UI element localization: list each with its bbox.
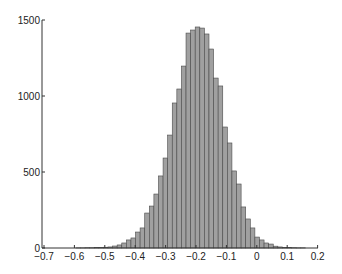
histogram-bar — [204, 34, 209, 248]
histogram-bar — [172, 103, 177, 248]
histogram-bar — [264, 243, 269, 248]
histogram-bar — [181, 66, 186, 248]
histogram-bar — [154, 194, 159, 248]
histogram-bar — [163, 158, 168, 248]
y-tick-label: 0 — [34, 243, 40, 254]
histogram-bar — [191, 30, 196, 248]
histogram-bar — [209, 49, 214, 248]
x-tick-label: −0.4 — [125, 251, 145, 262]
histogram-bar — [140, 228, 145, 248]
histogram-bar — [136, 232, 141, 248]
histogram-bar — [195, 27, 200, 248]
histogram-bar — [250, 228, 255, 248]
histogram-bar — [223, 127, 228, 248]
histogram-bar — [237, 184, 242, 248]
x-tick-label: −0.6 — [65, 251, 85, 262]
x-tick-label: 0.1 — [280, 251, 294, 262]
x-tick-label: 0.2 — [311, 251, 325, 262]
histogram-bar — [168, 135, 173, 248]
histogram-bar — [145, 213, 150, 248]
x-tick-label: −0.1 — [217, 251, 237, 262]
histogram-bar — [200, 28, 205, 248]
x-tick-label: −0.2 — [186, 251, 206, 262]
histogram-bar — [177, 89, 182, 248]
y-axis-ticks: 050010001500 — [18, 15, 45, 254]
histogram-bar — [259, 240, 264, 248]
histogram-bar — [122, 243, 127, 248]
histogram-bar — [126, 240, 131, 248]
histogram-bar — [158, 176, 163, 248]
histogram-chart: −0.7−0.6−0.5−0.4−0.3−0.2−0.100.10.2 0500… — [0, 0, 342, 274]
y-tick-label: 500 — [23, 167, 40, 178]
histogram-bar — [214, 78, 219, 248]
histogram-bar — [186, 33, 191, 248]
x-tick-label: 0 — [254, 251, 260, 262]
y-tick-label: 1000 — [18, 91, 41, 102]
histogram-bar — [218, 86, 223, 248]
histogram-bar — [269, 244, 274, 248]
x-tick-label: −0.3 — [156, 251, 176, 262]
histogram-bar — [241, 207, 246, 248]
x-tick-label: −0.5 — [95, 251, 115, 262]
histogram-bar — [232, 171, 237, 248]
y-tick-label: 1500 — [18, 15, 41, 26]
histogram-bar — [246, 219, 251, 248]
histogram-bar — [149, 206, 154, 248]
histogram-bars — [76, 27, 306, 248]
histogram-bar — [227, 143, 232, 248]
